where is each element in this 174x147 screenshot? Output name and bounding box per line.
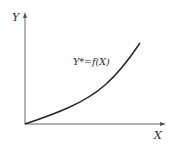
function-chart: Y X Y*=f(X) xyxy=(0,0,174,147)
curve-label: Y*=f(X) xyxy=(73,56,110,67)
x-axis-label: X xyxy=(153,129,163,142)
x-axis-arrow-icon xyxy=(160,122,166,126)
y-axis-label: Y xyxy=(12,11,21,24)
y-axis-arrow-icon xyxy=(23,12,27,18)
